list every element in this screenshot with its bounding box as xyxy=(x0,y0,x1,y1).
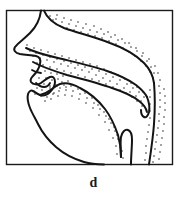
vocal-tract-diagram xyxy=(0,0,187,197)
diagram-frame xyxy=(7,11,173,165)
figure-container: d xyxy=(0,0,187,197)
